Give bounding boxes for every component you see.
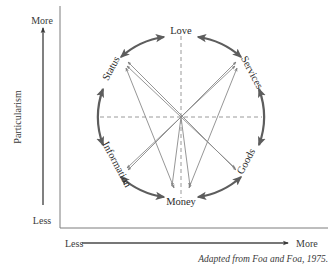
x-axis-high-label: More bbox=[296, 238, 318, 249]
spoke-to-money bbox=[172, 117, 181, 186]
y-axis-title: Particularism bbox=[12, 90, 23, 144]
center-spokes bbox=[127, 66, 235, 186]
node-label-information: Information bbox=[100, 140, 134, 190]
spoke-to-love bbox=[181, 117, 190, 186]
chord-status-to-money bbox=[126, 68, 174, 188]
figure-root: Love Services Goods Money Information St… bbox=[0, 0, 332, 270]
node-label-services: Services bbox=[239, 54, 265, 91]
node-label-money: Money bbox=[166, 196, 196, 207]
node-label-goods: Goods bbox=[235, 147, 258, 176]
node-label-status: Status bbox=[100, 54, 122, 82]
arc-love-services bbox=[198, 37, 241, 57]
chord-services-to-money bbox=[189, 68, 237, 188]
y-axis-low-label: Less bbox=[33, 215, 51, 226]
node-label-love: Love bbox=[170, 25, 192, 36]
y-axis-high-label: More bbox=[31, 15, 53, 26]
arc-status-love bbox=[121, 37, 164, 57]
arc-goods-money bbox=[198, 177, 241, 197]
figure-credit: Adapted from Foa and Foa, 1975. bbox=[197, 254, 328, 264]
x-axis-low-label: Less bbox=[65, 238, 83, 249]
circumplex-figure: Love Services Goods Money Information St… bbox=[0, 0, 332, 270]
